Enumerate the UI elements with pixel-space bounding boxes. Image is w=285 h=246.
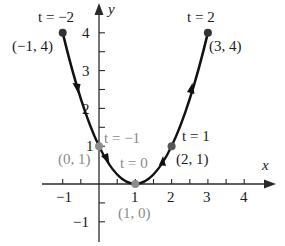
y-tick-label: 3	[82, 63, 90, 79]
coord-label-3-4: (3, 4)	[209, 38, 242, 55]
point-t-minus-2	[59, 29, 67, 37]
y-tick-label: 4	[82, 25, 90, 41]
y-axis: 4 3 2 1 −1 y	[73, 1, 115, 242]
x-tick-label: 3	[203, 189, 211, 205]
t-label-minus-1: t = −1	[104, 130, 140, 146]
point-t-1	[168, 142, 176, 150]
t-label-0: t = 0	[120, 155, 148, 171]
y-tick-label: −1	[73, 214, 89, 230]
point-t-minus-1	[95, 142, 103, 150]
x-tick-label: 4	[240, 189, 248, 205]
x-tick-label: 1	[131, 189, 139, 205]
coord-label-2-1: (2, 1)	[176, 151, 209, 168]
t-label-minus-2: t = −2	[38, 9, 74, 25]
point-t-0	[131, 180, 139, 188]
point-t-2	[204, 29, 212, 37]
coord-label-minus-1-4: (−1, 4)	[12, 38, 53, 55]
parametric-curve-plot: −1 1 2 3 4 x 4 3 2 1 −1 y t = −2 (−1,	[0, 0, 285, 246]
t-label-2: t = 2	[187, 9, 215, 25]
x-tick-label: −1	[56, 189, 72, 205]
x-tick-label: 2	[167, 189, 175, 205]
t-label-1: t = 1	[182, 128, 210, 144]
x-axis-label: x	[261, 157, 269, 173]
coord-label-0-1: (0, 1)	[58, 151, 91, 168]
y-axis-label: y	[106, 1, 115, 17]
y-axis-arrow-icon	[95, 3, 104, 15]
x-axis-arrow-icon	[264, 180, 276, 189]
coord-label-1-0: (1, 0)	[118, 205, 151, 222]
